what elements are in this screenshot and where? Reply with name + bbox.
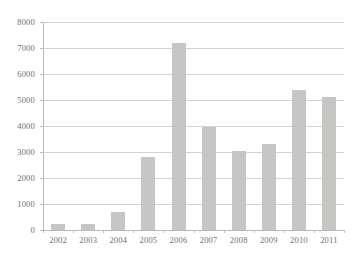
x-tick-mark <box>194 230 195 233</box>
y-tick-label: 6000 <box>17 69 35 79</box>
y-tick-label: 0 <box>31 225 35 235</box>
plot-area <box>43 22 344 230</box>
x-tick-label: 2007 <box>200 235 218 245</box>
x-tick-mark <box>163 230 164 233</box>
x-tick-mark <box>103 230 104 233</box>
x-tick-mark <box>133 230 134 233</box>
bar-2011 <box>322 97 336 230</box>
bar-2009 <box>262 144 276 230</box>
x-tick-label: 2005 <box>139 235 157 245</box>
y-tick-label: 3000 <box>17 147 35 157</box>
bar-2007 <box>202 127 216 230</box>
x-tick-mark <box>344 230 345 233</box>
bar-2006 <box>172 43 186 230</box>
x-tick-label: 2004 <box>109 235 127 245</box>
x-tick-label: 2003 <box>79 235 97 245</box>
x-axis: 2002200320042005200620072008200920102011 <box>43 232 344 252</box>
bar-2010 <box>292 90 306 230</box>
x-tick-label: 2010 <box>290 235 308 245</box>
x-tick-label: 2011 <box>320 235 338 245</box>
bar-chart: 010002000300040005000600070008000 200220… <box>0 0 352 256</box>
bar-2005 <box>141 157 155 230</box>
x-tick-mark <box>284 230 285 233</box>
x-tick-mark <box>314 230 315 233</box>
x-tick-mark <box>43 230 44 233</box>
x-tick-label: 2006 <box>170 235 188 245</box>
bar-2003 <box>81 224 95 231</box>
x-tick-label: 2009 <box>260 235 278 245</box>
y-tick-label: 1000 <box>17 199 35 209</box>
bar-2008 <box>232 151 246 230</box>
x-tick-label: 2002 <box>49 235 67 245</box>
x-tick-mark <box>254 230 255 233</box>
x-tick-mark <box>73 230 74 233</box>
bar-2002 <box>51 224 65 230</box>
y-tick-label: 2000 <box>17 173 35 183</box>
x-tick-label: 2008 <box>230 235 248 245</box>
y-tick-label: 5000 <box>17 95 35 105</box>
y-tick-label: 8000 <box>17 17 35 27</box>
y-tick-label: 7000 <box>17 43 35 53</box>
x-tick-mark <box>224 230 225 233</box>
bar-2004 <box>111 212 125 230</box>
y-axis: 010002000300040005000600070008000 <box>0 0 43 256</box>
bar-series <box>43 22 344 230</box>
y-tick-label: 4000 <box>17 121 35 131</box>
